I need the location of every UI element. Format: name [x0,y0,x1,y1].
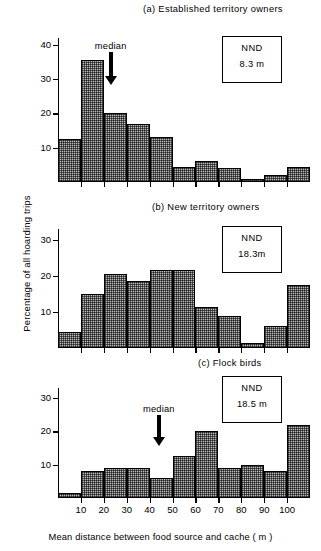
bar [58,493,81,498]
bar [241,465,264,498]
bar [127,468,150,498]
figure-root: Percentage of all hoarding trips (a) Est… [0,0,321,551]
bar [264,471,287,498]
panel-c-nnd-title: NND [223,383,281,393]
x-tick [173,182,174,187]
bar [81,471,104,498]
y-tick-label: 20 [40,427,51,437]
panel-b-title: (b) New territory owners [152,202,260,212]
bar [195,431,218,498]
y-tick-label: 10 [40,143,51,153]
panel-a-median-label: median [95,41,127,51]
panel-c-nnd-box: NND 18.5 m [222,376,282,423]
bar [127,281,150,348]
bar [195,161,218,182]
x-tick-label: 100 [279,505,295,515]
bar [173,167,196,182]
bar [287,425,310,498]
x-tick [195,182,196,187]
panel-c-nnd-value: 18.5 m [223,399,281,409]
x-tick [150,498,151,503]
y-tick-label: 20 [40,271,51,281]
x-tick-label: 50 [167,505,178,515]
x-tick [218,182,219,187]
bar [264,175,287,182]
y-tick [53,79,58,80]
panel-a-nnd-title: NND [223,43,281,53]
x-tick [287,182,288,187]
x-tick [150,182,151,187]
y-tick [53,240,58,241]
y-tick-label: 30 [40,393,51,403]
x-tick [127,182,128,187]
panel-a-median-marker: median [101,52,121,85]
x-tick [81,498,82,503]
y-tick-label: 10 [40,460,51,470]
x-tick [264,182,265,187]
x-tick [81,182,82,187]
x-tick [104,498,105,503]
panel-a-title: (a) Established territory owners [143,4,283,14]
x-tick [287,498,288,503]
bar [241,343,264,348]
bar [104,468,127,498]
x-tick-label: 30 [121,505,132,515]
panel-a-nnd-value: 8.3 m [223,59,281,69]
x-tick-label: 80 [236,505,247,515]
bar [104,113,127,182]
y-tick-label: 30 [40,74,51,84]
y-tick [53,465,58,466]
x-tick [173,498,174,503]
y-tick [53,398,58,399]
x-tick [241,498,242,503]
bar [104,274,127,348]
bar [81,294,104,348]
panel-b-nnd-box: NND 18.3m [222,226,282,273]
y-tick-label: 40 [40,40,51,50]
panel-b: (b) New territory owners 102030 median N… [0,190,321,350]
bar [287,285,310,348]
bar [127,124,150,182]
bar [195,307,218,348]
bar [287,167,310,182]
panel-a-nnd-box: NND 8.3 m [222,36,282,83]
y-tick-label: 10 [40,307,51,317]
x-tick [104,182,105,187]
y-tick-label: 20 [40,109,51,119]
bar [58,139,81,182]
x-tick [218,498,219,503]
bar [218,316,241,348]
bar [173,456,196,498]
y-tick [53,148,58,149]
y-tick [53,276,58,277]
panel-b-nnd-value: 18.3m [223,249,281,259]
bar [150,137,173,182]
x-tick-label: 20 [99,505,110,515]
y-tick-label: 30 [40,235,51,245]
panel-c: (c) Flock birds 102030102030405060708090… [0,350,321,551]
bar [173,270,196,348]
y-tick [53,431,58,432]
bar [264,326,287,348]
bar [218,168,241,182]
bar [150,270,173,348]
bar [218,468,241,498]
x-tick [195,498,196,503]
panel-a: (a) Established territory owners 1020304… [0,0,321,190]
panel-c-title: (c) Flock birds [198,358,262,368]
y-tick [53,113,58,114]
panel-b-nnd-title: NND [223,233,281,243]
x-tick-label: 10 [76,505,87,515]
x-tick-label: 70 [213,505,224,515]
y-tick [53,312,58,313]
bar [150,478,173,498]
x-tick [241,182,242,187]
x-tick-label: 40 [144,505,155,515]
bar [58,332,81,348]
x-axis-caption: Mean distance between food source and ca… [0,532,321,542]
x-tick [127,498,128,503]
y-tick [53,45,58,46]
bar [241,179,264,182]
x-tick-label: 60 [190,505,201,515]
x-tick [264,498,265,503]
